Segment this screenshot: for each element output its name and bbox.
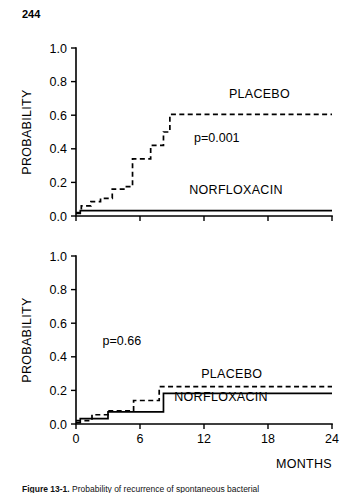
- kaplan-meier-figure: 0.00.20.40.60.81.0PROBABILITYp=0.001PLAC…: [0, 22, 350, 472]
- y-tick-label-0.6: 0.6: [50, 109, 67, 123]
- y-tick-label-0.6: 0.6: [50, 317, 67, 331]
- annotation-placebo-label: PLACEBO: [229, 87, 290, 101]
- caption-text: Probability of recurrence of spontaneous…: [72, 484, 259, 493]
- x-tick-label-18: 18: [261, 432, 275, 446]
- annotation-norfloxacin-label: NORFLOXACIN: [174, 390, 268, 404]
- y-axis-title: PROBABILITY: [20, 297, 34, 383]
- x-tick-label-24: 24: [325, 432, 339, 446]
- y-tick-label-0.4: 0.4: [50, 350, 67, 364]
- y-tick-label-0.4: 0.4: [50, 142, 67, 156]
- y-tick-label-1.0: 1.0: [50, 42, 67, 56]
- annotation-norfloxacin-label: NORFLOXACIN: [189, 183, 283, 197]
- chart-panel-top: 0.00.20.40.60.81.0PROBABILITYp=0.001PLAC…: [20, 42, 332, 224]
- chart-panel-bottom: 0.00.20.40.60.81.006121824PROBABILITYMON…: [20, 250, 339, 472]
- x-tick-label-6: 6: [137, 432, 144, 446]
- y-tick-label-1.0: 1.0: [50, 250, 67, 264]
- annotation-p-value: p=0.66: [103, 334, 142, 348]
- y-tick-label-0.8: 0.8: [50, 283, 67, 297]
- x-tick-label-12: 12: [197, 432, 211, 446]
- y-tick-label-0.2: 0.2: [50, 384, 67, 398]
- y-tick-label-0.2: 0.2: [50, 176, 67, 190]
- curve-placebo: [76, 114, 332, 212]
- x-axis-title: MONTHS: [276, 457, 332, 471]
- curve-norfloxacin: [76, 211, 332, 214]
- annotation-placebo-label: PLACEBO: [201, 367, 262, 381]
- caption-figure-label: Figure 13-1.: [22, 484, 70, 493]
- figure-container: 0.00.20.40.60.81.0PROBABILITYp=0.001PLAC…: [0, 22, 350, 472]
- x-tick-label-0: 0: [73, 432, 80, 446]
- figure-caption: Figure 13-1. Probability of recurrence o…: [22, 484, 342, 493]
- y-tick-label-0.8: 0.8: [50, 75, 67, 89]
- y-tick-label-0.0: 0.0: [50, 210, 67, 224]
- y-tick-label-0.0: 0.0: [50, 418, 67, 432]
- annotation-p-value: p=0.001: [194, 131, 240, 145]
- y-axis-title: PROBABILITY: [20, 89, 34, 175]
- page-number: 244: [22, 8, 40, 20]
